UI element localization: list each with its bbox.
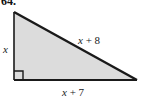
label-hypotenuse: x + 8 <box>78 35 100 46</box>
geometry-figure: 64. x x + 8 x + 7 <box>0 0 141 105</box>
label-vertical-leg: x <box>3 44 8 55</box>
label-base-leg: x + 7 <box>62 87 84 98</box>
